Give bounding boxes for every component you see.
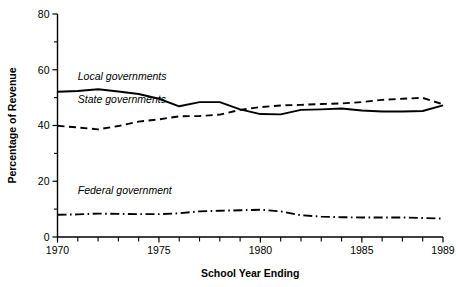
- x-tick-label: 1975: [147, 244, 171, 256]
- x-tick-label: 1980: [249, 244, 273, 256]
- y-tick-label: 40: [38, 119, 50, 131]
- line-chart-svg: 020406080 19701975198019851989 Local gov…: [0, 0, 469, 287]
- x-axis-tick-labels: 19701975198019851989: [46, 244, 455, 256]
- y-axis-tick-labels: 020406080: [38, 8, 50, 243]
- x-tick-label: 1970: [46, 244, 70, 256]
- chart-axes: [58, 14, 444, 237]
- y-tick-label: 60: [38, 64, 50, 76]
- chart-series-labels: Local governmentsState governmentsFedera…: [78, 70, 173, 196]
- y-tick-label: 80: [38, 8, 50, 20]
- x-tick-label: 1985: [350, 244, 374, 256]
- chart-series-lines: [58, 89, 444, 218]
- series-label-federal-government: Federal government: [78, 184, 173, 196]
- series-line-federal-government: [58, 210, 444, 219]
- x-tick-label: 1989: [431, 244, 455, 256]
- x-axis-title: School Year Ending: [201, 267, 299, 279]
- x-axis-ticks: [58, 237, 444, 243]
- chart-figure: 020406080 19701975198019851989 Local gov…: [0, 0, 469, 287]
- y-tick-label: 20: [38, 175, 50, 187]
- y-axis-title: Percentage of Revenue: [6, 67, 18, 183]
- series-label-state-governments: State governments: [78, 93, 167, 105]
- y-tick-label: 0: [44, 231, 50, 243]
- y-axis-ticks: [53, 14, 58, 237]
- series-label-local-governments: Local governments: [78, 70, 167, 82]
